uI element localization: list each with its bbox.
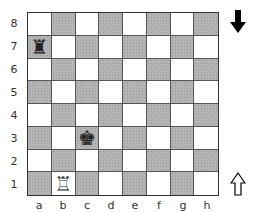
- square-e5[interactable]: [123, 81, 147, 104]
- file-label: h: [195, 199, 219, 212]
- square-d2[interactable]: [99, 150, 123, 173]
- rank-label: 8: [8, 17, 20, 30]
- square-f5[interactable]: [147, 81, 171, 104]
- file-label: d: [99, 199, 123, 212]
- square-h6[interactable]: [194, 59, 218, 82]
- file-label: f: [147, 199, 171, 212]
- square-a3[interactable]: [28, 127, 52, 150]
- black-rook-icon[interactable]: ♜: [30, 37, 48, 57]
- square-e1[interactable]: [123, 172, 147, 195]
- square-a6[interactable]: [28, 59, 52, 82]
- file-label: g: [171, 199, 195, 212]
- file-label: e: [123, 199, 147, 212]
- square-f3[interactable]: [147, 127, 171, 150]
- square-h3[interactable]: [194, 127, 218, 150]
- square-f8[interactable]: [147, 13, 171, 36]
- square-f2[interactable]: [147, 150, 171, 173]
- square-b6[interactable]: [52, 59, 76, 82]
- square-f4[interactable]: [147, 104, 171, 127]
- square-b2[interactable]: [52, 150, 76, 173]
- square-d5[interactable]: [99, 81, 123, 104]
- square-e3[interactable]: [123, 127, 147, 150]
- white-rook-icon[interactable]: ♖: [54, 174, 72, 194]
- square-g8[interactable]: [171, 13, 195, 36]
- square-a7[interactable]: ♜: [28, 36, 52, 59]
- square-h5[interactable]: [194, 81, 218, 104]
- square-h1[interactable]: [194, 172, 218, 195]
- square-d1[interactable]: [99, 172, 123, 195]
- square-c3[interactable]: ♚: [76, 127, 100, 150]
- square-a8[interactable]: [28, 13, 52, 36]
- square-h8[interactable]: [194, 13, 218, 36]
- file-label: a: [27, 199, 51, 212]
- square-c4[interactable]: [76, 104, 100, 127]
- square-f7[interactable]: [147, 36, 171, 59]
- square-g7[interactable]: [171, 36, 195, 59]
- rank-label: 4: [8, 109, 20, 122]
- square-d7[interactable]: [99, 36, 123, 59]
- square-h4[interactable]: [194, 104, 218, 127]
- square-e2[interactable]: [123, 150, 147, 173]
- file-label: b: [51, 199, 75, 212]
- square-g6[interactable]: [171, 59, 195, 82]
- square-b7[interactable]: [52, 36, 76, 59]
- square-b3[interactable]: [52, 127, 76, 150]
- file-label: c: [75, 199, 99, 212]
- square-b4[interactable]: [52, 104, 76, 127]
- square-d8[interactable]: [99, 13, 123, 36]
- square-a4[interactable]: [28, 104, 52, 127]
- square-c7[interactable]: [76, 36, 100, 59]
- rank-label: 1: [8, 178, 20, 191]
- square-f6[interactable]: [147, 59, 171, 82]
- square-g5[interactable]: [171, 81, 195, 104]
- square-e7[interactable]: [123, 36, 147, 59]
- white-turn-arrow-icon: [230, 172, 246, 196]
- chess-board: ♜♚♖: [27, 12, 219, 196]
- square-a5[interactable]: [28, 81, 52, 104]
- square-f1[interactable]: [147, 172, 171, 195]
- square-e8[interactable]: [123, 13, 147, 36]
- square-g3[interactable]: [171, 127, 195, 150]
- square-g2[interactable]: [171, 150, 195, 173]
- square-c6[interactable]: [76, 59, 100, 82]
- rank-label: 7: [8, 40, 20, 53]
- square-b8[interactable]: [52, 13, 76, 36]
- square-a1[interactable]: [28, 172, 52, 195]
- rank-label: 6: [8, 63, 20, 76]
- square-a2[interactable]: [28, 150, 52, 173]
- square-b5[interactable]: [52, 81, 76, 104]
- black-turn-arrow-icon: [230, 10, 246, 34]
- rank-label: 3: [8, 132, 20, 145]
- rank-label: 5: [8, 86, 20, 99]
- square-h2[interactable]: [194, 150, 218, 173]
- square-c8[interactable]: [76, 13, 100, 36]
- square-d4[interactable]: [99, 104, 123, 127]
- square-e4[interactable]: [123, 104, 147, 127]
- black-king-icon[interactable]: ♚: [78, 128, 96, 148]
- square-e6[interactable]: [123, 59, 147, 82]
- square-g4[interactable]: [171, 104, 195, 127]
- square-d6[interactable]: [99, 59, 123, 82]
- square-c5[interactable]: [76, 81, 100, 104]
- square-c1[interactable]: [76, 172, 100, 195]
- square-c2[interactable]: [76, 150, 100, 173]
- square-b1[interactable]: ♖: [52, 172, 76, 195]
- square-h7[interactable]: [194, 36, 218, 59]
- rank-label: 2: [8, 155, 20, 168]
- square-g1[interactable]: [171, 172, 195, 195]
- square-d3[interactable]: [99, 127, 123, 150]
